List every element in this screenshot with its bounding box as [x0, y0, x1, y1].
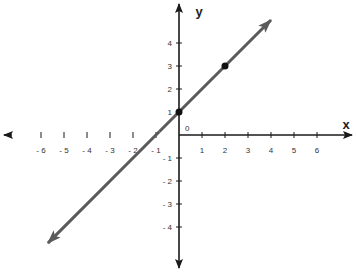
y-tick-label: 4 [168, 39, 173, 48]
coordinate-plane: - 6- 5- 4- 3- 2- 11234564321- 1- 2- 3- 4… [0, 0, 356, 272]
x-axis-label: x [342, 117, 350, 132]
x-tick-label: 1 [200, 146, 205, 155]
y-tick-label: 1 [168, 108, 173, 117]
axes [4, 4, 352, 268]
x-tick-label: 3 [246, 146, 251, 155]
y-tick-label: - 2 [163, 177, 173, 186]
y-tick-label: - 1 [163, 154, 173, 163]
x-tick-label: - 3 [105, 146, 115, 155]
x-tick-label: - 6 [36, 146, 46, 155]
line-series-upper [159, 20, 271, 132]
x-tick-label: 6 [315, 146, 320, 155]
x-tick-label: 5 [292, 146, 297, 155]
data-point [176, 109, 183, 116]
y-tick-label: 2 [168, 85, 173, 94]
y-tick-label: - 3 [163, 200, 173, 209]
x-tick-label: - 1 [151, 146, 161, 155]
origin-label: 0 [185, 124, 190, 133]
data-series [48, 20, 271, 243]
y-axis-label: y [195, 4, 203, 19]
y-tick-label: 3 [168, 62, 173, 71]
data-point [222, 63, 229, 70]
x-tick-label: - 5 [59, 146, 69, 155]
x-tick-label: - 4 [82, 146, 92, 155]
x-tick-label: 2 [223, 146, 228, 155]
x-tick-label: 4 [269, 146, 274, 155]
y-tick-label: - 4 [163, 223, 173, 232]
